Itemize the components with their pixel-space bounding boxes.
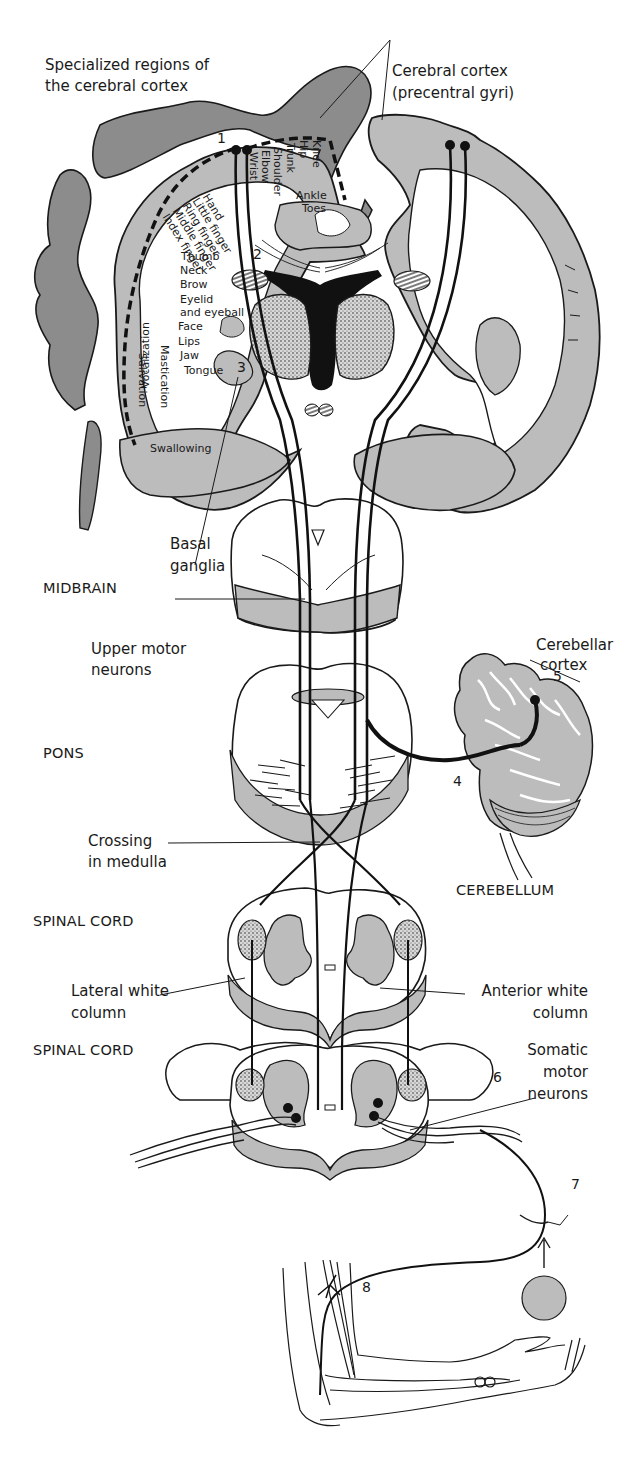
label-and-eyeball: and eyeball [180, 306, 244, 319]
label-cerebellar-2: cortex [540, 656, 587, 675]
label-midbrain: MIDBRAIN [43, 579, 117, 598]
step-number-8: 8 [362, 1278, 371, 1297]
label-upper-motor-2: neurons [91, 661, 152, 680]
label-swallowing: Swallowing [150, 442, 212, 455]
label-crossing-2: in medulla [88, 853, 167, 872]
label-elbow: Elbow [259, 150, 271, 183]
label-jaw: Jaw [180, 349, 199, 362]
step-number-2: 2 [253, 245, 262, 264]
label-somatic-1: Somatic [500, 1041, 588, 1060]
label-spinal-cord-1: SPINAL CORD [33, 912, 134, 931]
pons [230, 664, 412, 846]
cerebellum [455, 654, 593, 880]
label-wrist: Wrist [247, 152, 259, 180]
label-upper-motor-1: Upper motor [91, 640, 186, 659]
spinal-cord-lower [130, 1043, 522, 1181]
label-thumb: Thumb [181, 250, 219, 263]
label-lips: Lips [178, 335, 200, 348]
label-lateral-white-1: Lateral white [71, 982, 169, 1001]
label-hip: Hip [297, 140, 309, 158]
label-salivation: Salivation [136, 353, 148, 407]
label-specialized-regions-2: the cerebral cortex [45, 77, 188, 96]
step-number-1: 1 [217, 129, 226, 148]
label-trunk: Trunk [284, 143, 296, 173]
step-number-4: 4 [453, 772, 462, 791]
label-mastication: Mastication [158, 345, 170, 408]
label-knee: Knee [310, 140, 322, 168]
label-neck: Neck [180, 264, 207, 277]
spinal-cord-upper [228, 888, 426, 1048]
label-basal-2: ganglia [170, 557, 225, 576]
step-number-3: 3 [237, 358, 246, 377]
step-number-7: 7 [571, 1175, 580, 1194]
label-spinal-cord-2: SPINAL CORD [33, 1041, 134, 1060]
midbrain [231, 499, 403, 633]
up-arrow-icon [538, 1238, 550, 1268]
label-somatic-2: motor [500, 1063, 588, 1082]
label-face: Face [178, 320, 203, 333]
label-lateral-white-2: column [71, 1004, 126, 1023]
label-ankle: Ankle [296, 189, 327, 202]
label-somatic-3: neurons [500, 1085, 588, 1104]
label-anterior-white-1: Anterior white [460, 982, 588, 1001]
label-shoulder: Shoulder [271, 147, 283, 196]
label-specialized-regions-1: Specialized regions of [45, 56, 209, 75]
label-tongue: Tongue [184, 364, 223, 377]
label-crossing-1: Crossing [88, 832, 152, 851]
label-cerebellum: CEREBELLUM [456, 881, 554, 900]
label-eyelid: Eyelid [180, 293, 213, 306]
ball [522, 1276, 566, 1320]
motor-pathway-diagram [0, 0, 631, 1462]
label-toes: Toes [302, 202, 326, 215]
label-anterior-white-2: column [460, 1004, 588, 1023]
label-brow: Brow [180, 278, 208, 291]
label-pons: PONS [43, 744, 84, 763]
label-basal-1: Basal [170, 535, 211, 554]
label-cerebral-cortex-2: (precentral gyri) [392, 84, 514, 103]
label-cerebral-cortex-1: Cerebral cortex [392, 62, 508, 81]
label-cerebellar-1: Cerebellar [536, 636, 613, 655]
